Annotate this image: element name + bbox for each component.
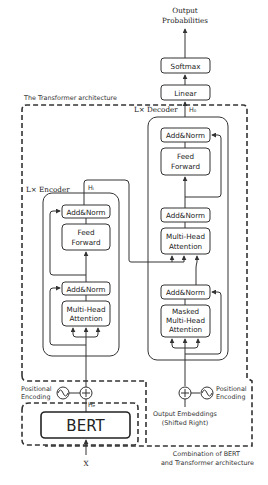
- encoder-add-norm-bottom-label: Add&Norm: [66, 285, 105, 294]
- decoder-ff-label-2: Forward: [171, 162, 200, 171]
- encoder-add-norm-top-label: Add&Norm: [66, 208, 105, 217]
- decoder-masked-label-2: Multi-Head: [166, 316, 205, 325]
- encoder-ff-label-1: Feed: [77, 228, 94, 237]
- transformer-title: The Transformer architecture: [23, 94, 117, 102]
- decoder-label: L× Decoder: [134, 105, 178, 114]
- decoder-add-norm-mid-label: Add&Norm: [166, 211, 205, 220]
- decoder-pe-label-1: Positional: [216, 385, 247, 393]
- linear-label: Linear: [174, 89, 196, 98]
- decoder-mha-label-2: Attention: [169, 242, 202, 251]
- output-label-line1: Output: [172, 6, 198, 15]
- encoder-mha-label-1: Multi-Head: [67, 305, 106, 314]
- decoder-masked-label-1: Masked: [172, 307, 199, 316]
- decoder-input-label-2: (Shifted Right): [162, 419, 208, 427]
- input-label: X: [83, 459, 89, 468]
- encoder-pe-label-1: Positional: [21, 385, 52, 393]
- decoder-masked-label-3: Attention: [169, 325, 202, 334]
- caption-line2: and Transformer architecture: [161, 459, 254, 467]
- encoder-pe-label-2: Encoding: [21, 393, 50, 401]
- bert-label: BERT: [66, 417, 105, 435]
- decoder-mha-label-1: Multi-Head: [166, 232, 205, 241]
- decoder-ff-label-1: Feed: [177, 152, 194, 161]
- decoder-add-norm-top-label: Add&Norm: [166, 131, 205, 140]
- encoder-mha-label-2: Attention: [69, 314, 102, 323]
- caption-line1: Combination of BERT: [173, 450, 240, 458]
- decoder-pe-label-2: Encoding: [216, 393, 245, 401]
- decoder-hidden-label: H₀: [189, 106, 197, 114]
- decoder-add-norm-bottom-label: Add&Norm: [166, 288, 205, 297]
- decoder-input-label-1: Output Embeddings: [153, 410, 217, 418]
- softmax-label: Softmax: [171, 62, 202, 71]
- bert-transformer-diagram: Output Probabilities Softmax Linear The …: [0, 0, 268, 485]
- encoder-ff-label-2: Forward: [72, 238, 101, 247]
- output-label-line2: Probabilities: [162, 16, 208, 25]
- encoder-hidden-label: Hᵢ: [88, 184, 94, 192]
